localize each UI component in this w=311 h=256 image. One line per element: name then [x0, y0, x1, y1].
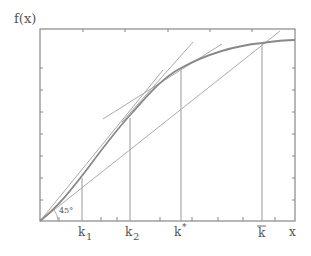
- svg-text:k: k: [125, 225, 133, 239]
- k2-label: k 2: [125, 225, 139, 242]
- svg-text:*: *: [182, 222, 187, 232]
- x-axis-label: x: [289, 225, 296, 239]
- kstar-label: k *: [174, 222, 187, 239]
- kbar-label: k: [257, 226, 266, 240]
- production-curve: [40, 40, 295, 221]
- diagram-canvas: f(x) x 45° k 1 k 2 k * k: [0, 0, 311, 256]
- y-axis-label: f(x): [14, 11, 36, 26]
- svg-text:k: k: [174, 225, 182, 239]
- svg-text:2: 2: [133, 231, 139, 242]
- svg-text:k: k: [78, 225, 86, 239]
- tangent-line-k2: [122, 42, 193, 122]
- svg-text:k: k: [258, 226, 266, 240]
- x-axis-ticks: [59, 217, 275, 221]
- angle-label: 45°: [59, 206, 73, 215]
- angle-arc: [54, 210, 58, 221]
- 45-degree-line: [40, 31, 280, 221]
- k1-label: k 1: [78, 225, 92, 242]
- svg-text:1: 1: [86, 231, 92, 242]
- plot-frame: [40, 29, 295, 221]
